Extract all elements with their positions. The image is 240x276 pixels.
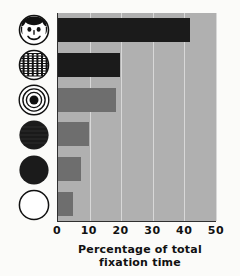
bar-textured-dark-disc — [58, 122, 89, 146]
textured-disc-icon — [13, 119, 55, 152]
bar-smiling-face — [58, 18, 190, 42]
x-tick-label: 50 — [208, 224, 224, 237]
x-tick-label: 40 — [176, 224, 192, 237]
bar-row — [58, 152, 216, 187]
bar-row — [58, 13, 216, 48]
scrambled-face-icon — [13, 48, 55, 81]
x-tick-label: 0 — [53, 224, 61, 237]
smiling-face-icon — [13, 13, 55, 46]
plot-area — [57, 13, 216, 222]
bar-row — [58, 117, 216, 152]
bar-series — [58, 13, 216, 221]
x-axis-title-line-1: Percentage of total — [45, 243, 235, 256]
bar-row — [58, 48, 216, 83]
bar-scrambled-face — [58, 53, 120, 77]
gridline — [216, 13, 217, 221]
x-tick-label: 10 — [81, 224, 97, 237]
x-axis-tick-labels: 01020304050 — [57, 224, 216, 238]
x-axis-title-line-2: fixation time — [45, 256, 235, 269]
bar-solid-dark-disc — [58, 157, 81, 181]
bar-row — [58, 82, 216, 117]
bar-empty-outline-circle — [58, 192, 73, 216]
x-axis-title: Percentage of total fixation time — [45, 243, 235, 269]
bullseye-icon — [13, 83, 55, 116]
outline-circle-icon — [13, 189, 55, 222]
solid-disc-icon — [13, 154, 55, 187]
x-tick-label: 30 — [144, 224, 160, 237]
bar-bullseye-concentric-circles — [58, 88, 116, 112]
category-icon-column — [10, 13, 58, 222]
bar-chart: 01020304050 Percentage of total fixation… — [0, 0, 240, 276]
bar-row — [58, 186, 216, 221]
x-tick-label: 20 — [112, 224, 128, 237]
